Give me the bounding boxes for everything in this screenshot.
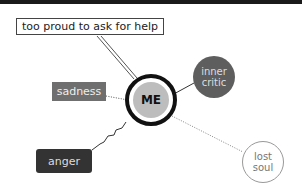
diagram: too proud to ask for help sadness anger … [0, 0, 302, 195]
node-too-proud: too proud to ask for help [16, 18, 164, 35]
node-anger: anger [36, 149, 92, 173]
node-inner-critic: inner critic [193, 56, 235, 98]
node-lost-soul: lost soul [242, 141, 284, 183]
center-node-me: ME [132, 81, 170, 119]
node-sadness: sadness [52, 82, 106, 101]
